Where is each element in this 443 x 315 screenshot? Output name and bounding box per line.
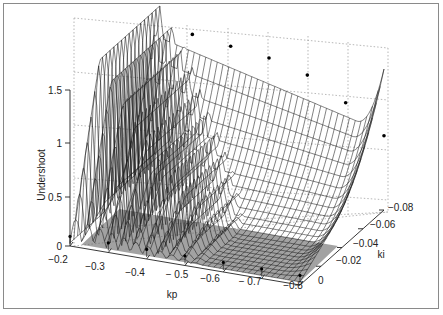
z-axis-ticks: 00.511.5 bbox=[48, 85, 70, 252]
highlight-marker bbox=[267, 56, 271, 60]
ki-tick-label: −0.06 bbox=[370, 219, 396, 230]
kp-tick-label: −0.2 bbox=[48, 254, 68, 265]
ki-axis-label: ki bbox=[377, 249, 384, 260]
highlight-marker bbox=[229, 44, 233, 48]
ki-tick-label: 0 bbox=[318, 275, 324, 286]
highlight-marker bbox=[306, 73, 310, 77]
kp-tick-label: −0.6 bbox=[200, 273, 220, 284]
surface-plot: 00.511.5 −0.2−0.3−0.4− 0.5−0.6− 0.7−0.8 … bbox=[0, 0, 443, 315]
kp-tick-label: −0.8 bbox=[283, 280, 303, 291]
z-tick-label: 0.5 bbox=[48, 192, 62, 203]
z-tick-label: 1.5 bbox=[48, 85, 62, 96]
ki-tick-label: −0.08 bbox=[388, 202, 414, 213]
kp-tick-label: −0.4 bbox=[125, 267, 145, 278]
z-tick-label: 1 bbox=[56, 138, 62, 149]
highlight-marker bbox=[382, 134, 386, 138]
z-tick-label: 0 bbox=[56, 241, 62, 252]
kp-tick-label: − 0.7 bbox=[239, 276, 262, 287]
kp-tick-label: − 0.5 bbox=[166, 269, 189, 280]
ki-tick-label: −0.04 bbox=[353, 238, 379, 249]
highlight-marker bbox=[191, 33, 195, 37]
highlight-marker bbox=[344, 101, 348, 105]
ki-tick-label: −0.02 bbox=[336, 255, 362, 266]
kp-tick-label: −0.3 bbox=[85, 261, 105, 272]
kp-axis-label: kp bbox=[167, 289, 178, 300]
z-axis-label: Undershoot bbox=[36, 149, 47, 201]
